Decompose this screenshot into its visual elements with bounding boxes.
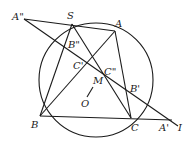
label-c1: C' [73,60,83,71]
geometry-diagram: A" S A B" C' C" M O B' B C A' I [0,0,194,151]
line-b-a1 [40,116,172,120]
label-s: S [67,10,74,21]
label-a1: A' [158,122,169,133]
segment-s-b [40,24,72,116]
label-i: I [177,122,183,133]
label-a2: A" [11,11,24,22]
label-m: M [92,75,104,86]
label-a: A [114,18,122,29]
label-b: B [30,119,38,130]
segment-o-m [87,87,93,97]
label-b2: B" [67,39,80,50]
label-o: O [81,98,89,109]
label-b1: B' [129,83,140,94]
label-c: C [131,122,139,133]
label-c2: C" [104,66,116,77]
